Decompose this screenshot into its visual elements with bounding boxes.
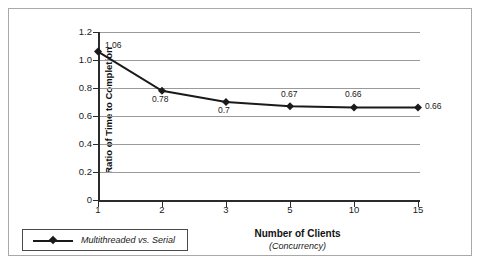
x-axis-title: Number of Clients: [210, 228, 385, 240]
chart-legend: Multithreaded vs. Serial: [22, 229, 188, 251]
y-tick-label: 0.6: [79, 111, 92, 121]
y-axis-title-container: Ratio of Time to Completion: [44, 55, 64, 175]
x-tick-label: 2: [147, 205, 177, 215]
x-tick-label: 5: [275, 205, 305, 215]
y-tick-label: 0: [87, 195, 92, 205]
legend-diamond-marker-icon: [49, 236, 57, 244]
y-tick-label: 1.0: [79, 55, 92, 65]
y-axis-tick-labels: 1.2 1.0 0.8 0.6 0.4 0.2 0: [62, 32, 92, 200]
x-axis-title-container: Number of Clients (Concurrency): [210, 228, 385, 252]
x-tick-label: 1: [83, 205, 113, 215]
x-tick-label: 3: [211, 205, 241, 215]
y-tick-label: 1.2: [79, 27, 92, 37]
x-tick-label: 15: [403, 205, 433, 215]
chart-figure: Ratio of Time to Completion 1.2 1.0 0.8 …: [0, 0, 486, 273]
y-tick-label: 0.2: [79, 167, 92, 177]
legend-item-label: Multithreaded vs. Serial: [81, 234, 175, 247]
x-axis-subtitle: (Concurrency): [210, 240, 385, 252]
y-tick-label: 0.8: [79, 83, 92, 93]
y-tick-label: 0.4: [79, 139, 92, 149]
x-tick-label: 10: [339, 205, 369, 215]
data-point-label: 0.66: [425, 102, 442, 111]
